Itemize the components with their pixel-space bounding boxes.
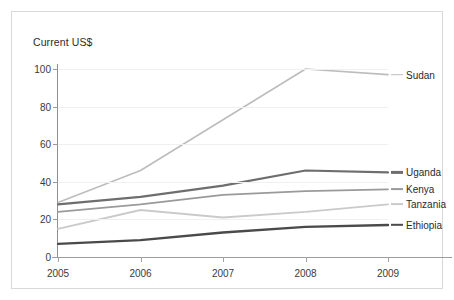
x-axis-line bbox=[52, 257, 452, 258]
y-axis-tick-label: 20 bbox=[40, 214, 51, 225]
x-axis-tick-label: 2008 bbox=[294, 268, 316, 279]
x-tick-mark bbox=[58, 257, 59, 262]
series-label-dash-tanzania bbox=[391, 203, 403, 205]
x-axis-tick-label: 2005 bbox=[47, 268, 69, 279]
gridline bbox=[58, 182, 388, 183]
y-axis-tick-label: 40 bbox=[40, 176, 51, 187]
chart-frame: Current US$ 020406080100 200520062007200… bbox=[11, 11, 443, 289]
gridline bbox=[58, 69, 388, 70]
y-axis-tick-label: 60 bbox=[40, 139, 51, 150]
chart-axis-title: Current US$ bbox=[33, 36, 92, 48]
x-axis-tick-label: 2006 bbox=[129, 268, 151, 279]
x-tick-mark bbox=[223, 257, 224, 262]
y-axis-tick-label: 100 bbox=[34, 64, 51, 75]
series-label-dash-uganda bbox=[391, 171, 403, 173]
series-label-tanzania: Tanzania bbox=[406, 199, 446, 210]
series-label-dash-sudan bbox=[391, 74, 403, 76]
y-axis-tick-label: 80 bbox=[40, 101, 51, 112]
series-label-dash-ethiopia bbox=[391, 224, 403, 226]
x-axis-tick-label: 2007 bbox=[212, 268, 234, 279]
series-lines bbox=[58, 69, 388, 257]
series-label-uganda: Uganda bbox=[406, 167, 441, 178]
series-line-uganda bbox=[58, 171, 388, 205]
series-label-ethiopia: Ethiopia bbox=[406, 220, 442, 231]
x-tick-mark bbox=[388, 257, 389, 262]
y-tick-mark bbox=[53, 219, 58, 220]
y-tick-mark bbox=[53, 182, 58, 183]
gridline bbox=[58, 219, 388, 220]
y-axis-tick-label: 0 bbox=[45, 252, 51, 263]
y-axis-labels: 020406080100 bbox=[24, 69, 51, 257]
x-tick-mark bbox=[306, 257, 307, 262]
x-tick-mark bbox=[141, 257, 142, 262]
y-tick-mark bbox=[53, 144, 58, 145]
series-line-ethiopia bbox=[58, 225, 388, 244]
series-label-dash-kenya bbox=[391, 188, 403, 190]
series-label-sudan: Sudan bbox=[406, 69, 435, 80]
plot-area bbox=[58, 69, 388, 257]
y-tick-mark bbox=[53, 69, 58, 70]
series-label-kenya: Kenya bbox=[406, 184, 434, 195]
gridline bbox=[58, 107, 388, 108]
y-tick-mark bbox=[53, 107, 58, 108]
gridline bbox=[58, 144, 388, 145]
x-axis-tick-label: 2009 bbox=[377, 268, 399, 279]
